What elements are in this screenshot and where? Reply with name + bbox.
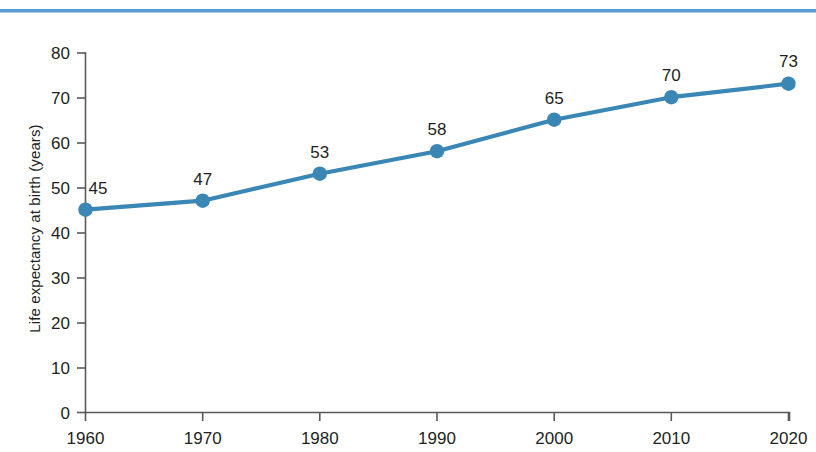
y-axis-tick-labels: 80 70 60 50 40 30 20 10 0 — [51, 44, 70, 423]
x-tick-label-1990: 1990 — [418, 429, 456, 448]
chart-figure: Life expectancy at birth (years) 80 70 6… — [0, 0, 816, 452]
y-tick-label-50: 50 — [51, 179, 70, 198]
data-point-1960[interactable] — [78, 203, 92, 217]
x-tick-label-2000: 2000 — [535, 429, 573, 448]
y-tick-label-30: 30 — [51, 269, 70, 288]
x-tick-label-2010: 2010 — [652, 429, 690, 448]
series-data-labels: 45 47 53 58 65 70 73 — [89, 52, 798, 198]
data-label-2000: 65 — [545, 89, 564, 108]
data-label-1960: 45 — [89, 179, 108, 198]
data-point-1980[interactable] — [313, 167, 327, 181]
data-label-1990: 58 — [428, 120, 447, 139]
data-label-1970: 47 — [193, 170, 212, 189]
x-tick-label-2020: 2020 — [770, 429, 808, 448]
data-point-1990[interactable] — [430, 144, 444, 158]
data-label-2020: 73 — [779, 52, 798, 71]
x-axis-tick-labels: 1960 1970 1980 1990 2000 2010 2020 — [67, 429, 808, 448]
y-tick-label-80: 80 — [51, 44, 70, 63]
y-tick-label-20: 20 — [51, 314, 70, 333]
y-axis-ticks — [77, 53, 86, 413]
data-point-2020[interactable] — [781, 77, 795, 91]
y-tick-label-0: 0 — [61, 404, 70, 423]
x-tick-label-1960: 1960 — [67, 429, 105, 448]
y-tick-label-40: 40 — [51, 224, 70, 243]
x-tick-label-1980: 1980 — [301, 429, 339, 448]
x-axis-ticks — [86, 413, 789, 422]
axes-group — [86, 53, 790, 421]
x-tick-label-1970: 1970 — [184, 429, 222, 448]
data-point-1970[interactable] — [196, 194, 210, 208]
y-tick-label-10: 10 — [51, 359, 70, 378]
data-point-2000[interactable] — [547, 113, 561, 127]
y-tick-label-70: 70 — [51, 89, 70, 108]
data-label-1980: 53 — [310, 143, 329, 162]
series-markers — [78, 77, 795, 217]
line-chart-plot: 80 70 60 50 40 30 20 10 0 1960 1970 1980… — [0, 0, 816, 452]
data-label-2010: 70 — [662, 66, 681, 85]
y-tick-label-60: 60 — [51, 134, 70, 153]
data-point-2010[interactable] — [664, 90, 678, 104]
